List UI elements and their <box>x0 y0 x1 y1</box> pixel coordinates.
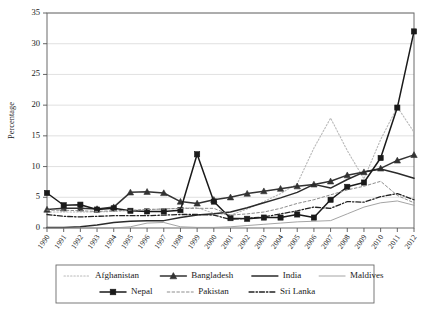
y-tick-label: 15 <box>31 130 40 140</box>
data-point-marker <box>411 152 417 158</box>
x-tick-label: 1992 <box>69 233 85 251</box>
data-point-marker <box>378 155 383 160</box>
legend-label: India <box>283 270 302 280</box>
x-tick-label: 2003 <box>252 233 268 251</box>
x-axis-ticks: 1990199119921993199419951996199719981999… <box>36 228 419 251</box>
legend-label: Nepal <box>131 286 153 296</box>
series-line <box>47 31 414 218</box>
legend-label: Bangladesh <box>191 270 233 280</box>
y-tick-label: 30 <box>31 38 40 48</box>
data-point-marker <box>128 208 133 213</box>
data-point-marker <box>295 212 300 217</box>
x-tick-label: 2001 <box>219 233 235 251</box>
legend-label: Pakistan <box>198 286 229 296</box>
chart-container: 05101520253035 1990199119921993199419951… <box>0 0 429 311</box>
x-tick-label: 2004 <box>269 233 285 251</box>
data-point-marker <box>211 199 216 204</box>
chart-legend: AfghanistanBangladeshIndiaMaldivesNepalP… <box>56 265 384 303</box>
y-tick-label: 5 <box>36 191 40 201</box>
x-tick-label: 2012 <box>403 233 419 251</box>
x-tick-label: 1999 <box>186 233 202 251</box>
x-tick-label: 2007 <box>319 233 335 251</box>
data-point-marker <box>311 215 316 220</box>
data-series-layer <box>44 29 417 228</box>
legend-marker <box>110 289 116 295</box>
y-tick-label: 20 <box>31 99 40 109</box>
legend-label: Maldives <box>350 270 384 280</box>
x-tick-label: 1995 <box>119 233 135 251</box>
x-tick-label: 1994 <box>102 233 118 251</box>
y-tick-label: 35 <box>31 7 40 17</box>
x-tick-label: 2006 <box>302 233 318 251</box>
y-tick-label: 10 <box>31 161 40 171</box>
x-tick-label: 1998 <box>169 233 185 251</box>
data-point-marker <box>111 206 116 211</box>
y-axis-ticks: 05101520253035 <box>31 7 47 232</box>
data-point-marker <box>328 197 333 202</box>
y-tick-label: 25 <box>31 68 40 78</box>
x-tick-label: 1996 <box>136 233 152 251</box>
data-point-marker <box>61 203 66 208</box>
data-point-marker <box>44 190 49 195</box>
x-tick-label: 2008 <box>336 233 352 251</box>
y-tick-label: 0 <box>36 222 40 232</box>
x-tick-label: 2002 <box>236 233 252 251</box>
x-tick-label: 2009 <box>353 233 369 251</box>
data-point-marker <box>361 180 366 185</box>
x-tick-label: 2005 <box>286 233 302 251</box>
data-point-marker <box>161 209 166 214</box>
line-chart: 05101520253035 1990199119921993199419951… <box>0 0 429 311</box>
data-point-marker <box>278 215 283 220</box>
x-tick-label: 1993 <box>86 233 102 251</box>
data-point-marker <box>345 184 350 189</box>
legend-label: Sri Lanka <box>280 286 315 296</box>
data-point-marker <box>195 152 200 157</box>
legend-label: Afghanistan <box>95 270 139 280</box>
x-tick-label: 2010 <box>369 233 385 251</box>
series-nepal <box>44 29 416 222</box>
x-tick-label: 2011 <box>386 233 402 251</box>
x-tick-label: 1991 <box>52 233 68 251</box>
data-point-marker <box>411 29 416 34</box>
y-axis-title: Percentage <box>7 102 16 139</box>
data-point-marker <box>395 105 400 110</box>
data-point-marker <box>78 202 83 207</box>
x-tick-label: 2000 <box>202 233 218 251</box>
x-tick-label: 1997 <box>152 233 168 251</box>
x-tick-label: 1990 <box>36 233 52 251</box>
